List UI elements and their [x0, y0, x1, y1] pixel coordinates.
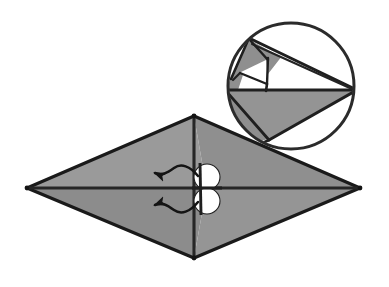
vertex-left-point: [25, 186, 30, 191]
vertex-bottom-point: [192, 256, 197, 261]
inset-crease-step: [266, 84, 267, 91]
vertex-top-point: [192, 114, 197, 119]
vertex-right-point: [358, 186, 363, 191]
inset-crease-inner-vertical: [267, 58, 268, 84]
pivot-circles-group: [192, 163, 222, 215]
figure-canvas: [0, 0, 389, 287]
pivot-crease-vertical: [200, 163, 201, 215]
origami-figure: Origami rhombus fold step with magnified…: [0, 0, 389, 287]
magnifier-inset-group: [225, 23, 357, 152]
